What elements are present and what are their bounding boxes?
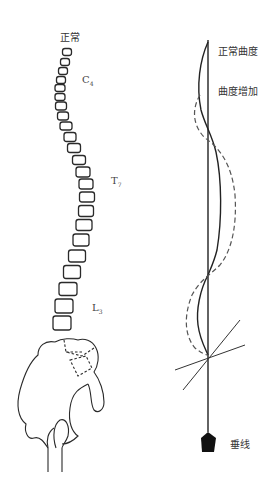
- level-letter: T: [111, 175, 118, 186]
- level-label-t7: T7: [111, 175, 122, 188]
- increased-curve: [186, 95, 235, 355]
- pelvis: [18, 339, 104, 472]
- vertebra: [63, 49, 72, 56]
- vertebra: [55, 85, 65, 92]
- level-letter: C: [82, 74, 90, 85]
- vertebra: [64, 266, 81, 279]
- vertebra: [60, 122, 72, 130]
- vertebra: [64, 133, 76, 142]
- vertebra: [57, 77, 66, 84]
- vertebra: [59, 68, 68, 75]
- vertebra: [80, 192, 95, 202]
- vertebra: [55, 94, 65, 101]
- level-label-l3: L3: [92, 302, 102, 315]
- level-label-c4: C4: [82, 74, 93, 87]
- level-sub: 4: [90, 80, 94, 87]
- vertebra: [59, 283, 77, 296]
- vertebra: [68, 144, 81, 153]
- vertebra: [53, 316, 71, 330]
- pelvic-tilt-line-2: [183, 320, 240, 390]
- label-normal-curvature: 正常曲度: [218, 46, 258, 58]
- level-letter: L: [92, 302, 99, 313]
- level-sub: 7: [118, 181, 122, 188]
- vertebra: [56, 102, 67, 110]
- plumb-bob-icon: [201, 432, 216, 452]
- vertebra: [61, 59, 70, 66]
- curvature-diagram: [175, 40, 245, 452]
- vertebra: [76, 167, 90, 177]
- vertebra: [79, 206, 94, 217]
- diagram-canvas: [0, 0, 279, 480]
- vertebra: [58, 112, 69, 120]
- vertebra: [55, 299, 73, 313]
- vertebra: [73, 156, 86, 165]
- vertebra: [69, 250, 86, 262]
- vertebra: [79, 179, 93, 189]
- spine-vertebrae: [53, 49, 95, 331]
- vertebra: [73, 234, 89, 246]
- level-sub: 3: [99, 308, 103, 315]
- label-increased-curvature: 曲度增加: [218, 86, 258, 98]
- vertebra: [76, 220, 92, 231]
- spine-top-label: 正常: [60, 32, 80, 44]
- label-plumb-line: 垂线: [230, 439, 250, 451]
